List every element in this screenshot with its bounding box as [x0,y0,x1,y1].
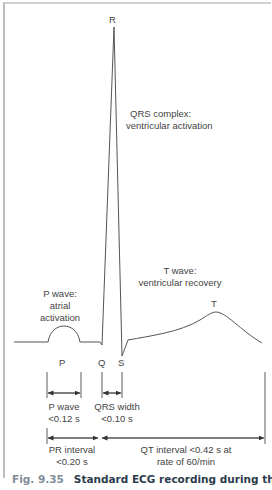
label-t: T [211,298,217,310]
qrs-width-line2: <0.10 s [94,413,140,425]
qrs-width-line1: QRS width [94,401,140,413]
label-q: Q [98,357,105,369]
label-t-wave: T wave: ventricular recovery [126,265,234,289]
caption-number: Fig. 9.35 [12,473,64,485]
label-qrs-complex: QRS complex: ventricular activation [126,108,213,132]
pr-interval-line2: <0.20 s [46,456,98,468]
label-qt-interval: QT interval <0.42 s at rate of 60/min [132,444,240,468]
p-wave-dur-line2: <0.12 s [42,413,86,425]
figure-caption: Fig. 9.35Standard ECG recording during t… [12,473,272,485]
p-wave-line3: activation [36,312,84,324]
label-s: S [118,357,124,369]
p-wave-line2: atrial [36,300,84,312]
label-qrs-width: QRS width <0.10 s [94,401,140,425]
label-p-wave-duration: P wave <0.12 s [42,401,86,425]
caption-title: Standard ECG recording during the timing [74,473,272,485]
p-wave-line1: P wave: [36,288,84,300]
t-wave-line1: T wave: [126,265,234,277]
label-p: P [59,357,65,369]
label-r: R [109,14,116,26]
t-wave-line2: ventricular recovery [126,277,234,289]
qt-interval-line1: QT interval <0.42 s at [132,444,240,456]
qrs-complex-line2: ventricular activation [126,120,213,132]
p-wave-dur-line1: P wave [42,401,86,413]
qrs-complex-line1: QRS complex: [126,108,213,120]
qt-interval-line2: rate of 60/min [132,456,240,468]
label-pr-interval: PR interval <0.20 s [46,444,98,468]
pr-interval-line1: PR interval [46,444,98,456]
label-p-wave: P wave: atrial activation [36,288,84,324]
